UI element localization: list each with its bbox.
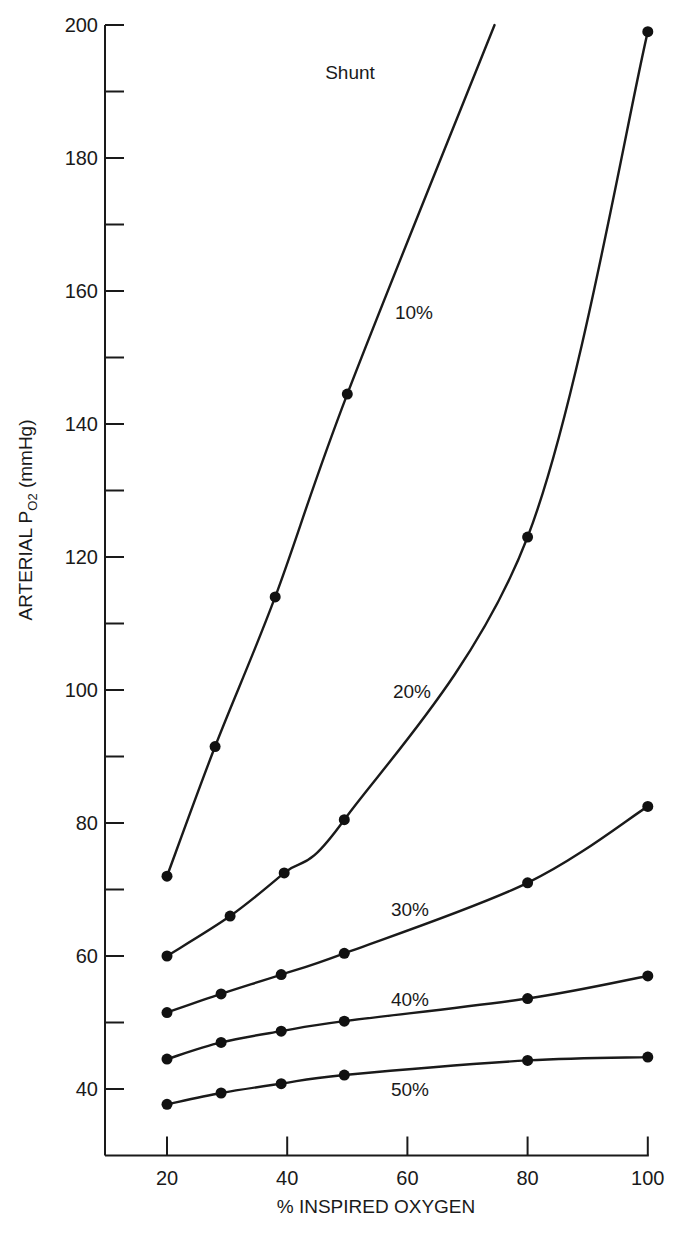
x-tick-label: 40 — [276, 1167, 298, 1189]
y-tick-label: 180 — [65, 147, 98, 169]
data-point — [216, 1087, 227, 1098]
data-point — [162, 1007, 173, 1018]
y-tick-label: 40 — [76, 1078, 98, 1100]
series-label-40pct: 40% — [391, 989, 429, 1010]
x-tick-label: 80 — [516, 1167, 538, 1189]
axis-ticks — [105, 25, 648, 1156]
y-tick-label: 160 — [65, 280, 98, 302]
y-tick-label: 60 — [76, 945, 98, 967]
axis-tick-labels: 40608010012014016018020020406080100 — [65, 14, 665, 1189]
y-axis-title-unit: (mmHg) — [15, 419, 36, 493]
data-point — [276, 1026, 287, 1037]
data-point — [276, 969, 287, 980]
data-point — [642, 970, 653, 981]
data-point — [342, 389, 353, 400]
data-point — [522, 532, 533, 543]
data-point — [339, 814, 350, 825]
y-axis-title: ARTERIAL PO2 (mmHg) — [15, 419, 40, 620]
data-point — [339, 1016, 350, 1027]
y-tick-label: 140 — [65, 413, 98, 435]
data-point — [162, 871, 173, 882]
data-point — [522, 877, 533, 888]
data-curves — [167, 25, 648, 1104]
y-tick-label: 80 — [76, 812, 98, 834]
data-point — [162, 951, 173, 962]
data-point — [522, 993, 533, 1004]
data-point — [216, 1037, 227, 1048]
series-label-10pct: 10% — [395, 302, 433, 323]
data-point — [276, 1078, 287, 1089]
data-point — [279, 867, 290, 878]
data-point — [339, 948, 350, 959]
series-label-30pct: 30% — [391, 899, 429, 920]
y-tick-label: 200 — [65, 14, 98, 36]
curve-shunt-20pct — [167, 32, 648, 956]
axes — [105, 25, 649, 1156]
series-label-20pct: 20% — [393, 681, 431, 702]
data-point — [642, 1052, 653, 1063]
data-point — [270, 591, 281, 602]
data-point — [162, 1099, 173, 1110]
data-point — [642, 26, 653, 37]
y-axis-title-subscript: O2 — [25, 493, 40, 510]
data-point — [642, 801, 653, 812]
y-axis-title-main: ARTERIAL P — [15, 511, 36, 621]
data-point — [162, 1054, 173, 1065]
data-points — [162, 26, 654, 1110]
shunt-annotation: Shunt — [325, 62, 375, 83]
data-point — [522, 1055, 533, 1066]
y-tick-label: 100 — [65, 679, 98, 701]
data-point — [210, 741, 221, 752]
series-labels: 10%20%30%40%50% — [391, 302, 433, 1100]
data-point — [339, 1070, 350, 1081]
x-tick-label: 100 — [631, 1167, 664, 1189]
data-point — [216, 988, 227, 999]
x-tick-label: 20 — [156, 1167, 178, 1189]
x-tick-label: 60 — [396, 1167, 418, 1189]
shunt-po2-chart: 40608010012014016018020020406080100 10%2… — [0, 0, 677, 1240]
x-axis-title: % INSPIRED OXYGEN — [277, 1196, 476, 1217]
data-point — [225, 911, 236, 922]
y-tick-label: 120 — [65, 546, 98, 568]
series-label-50pct: 50% — [391, 1079, 429, 1100]
